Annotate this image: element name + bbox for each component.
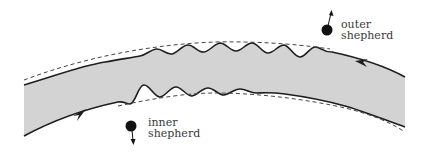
outer-shepherd-label-line2: shepherd: [341, 30, 393, 41]
outer-shepherd-moon-icon: [322, 25, 333, 36]
inner-shepherd-label-line2: shepherd: [148, 128, 200, 139]
outer-shepherd-arrowhead-icon: [329, 10, 334, 16]
inner-shepherd-moon-icon: [126, 121, 137, 132]
outer-shepherd-label: outer shepherd: [341, 19, 393, 41]
inner-shepherd-arrowhead-icon: [131, 139, 136, 145]
inner-shepherd-label: inner shepherd: [148, 117, 200, 139]
ring-band: [24, 43, 405, 136]
